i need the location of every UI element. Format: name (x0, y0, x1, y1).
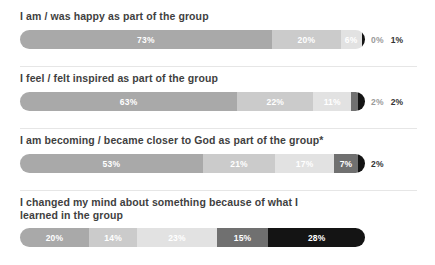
outside-value-label: 2% (391, 97, 404, 107)
bar-row: 63%22%11%2%2% (20, 92, 403, 111)
question-title: I changed my mind about something becaus… (20, 196, 417, 221)
segment-value-label: 7% (340, 159, 353, 169)
question-title: I am becoming / became closer to God as … (20, 134, 417, 147)
bar-segment[interactable]: 17% (275, 154, 334, 173)
stacked-bar: 63%22%11% (20, 92, 365, 111)
segment-value-label: 21% (230, 159, 248, 169)
segment-value-label: 20% (46, 233, 64, 243)
stacked-bar-chart: I am / was happy as part of the group73%… (0, 0, 435, 265)
bar-segment[interactable]: 7% (334, 154, 358, 173)
stacked-bar: 53%21%17%7% (20, 154, 365, 173)
stacked-bar: 20%14%23%15%28% (20, 228, 365, 247)
section-divider (20, 66, 417, 67)
bar-row: 53%21%17%7%2% (20, 154, 384, 173)
bar-segment[interactable] (358, 154, 365, 173)
outside-labels: 2%2% (371, 97, 403, 107)
segment-value-label: 73% (137, 35, 155, 45)
segment-value-label: 15% (234, 233, 252, 243)
bar-segment[interactable]: 21% (203, 154, 275, 173)
bar-segment[interactable]: 20% (272, 30, 341, 49)
bar-segment[interactable]: 20% (20, 228, 89, 247)
segment-value-label: 23% (168, 233, 186, 243)
bar-row: 73%20%6%0%1% (20, 30, 403, 49)
segment-value-label: 11% (324, 97, 341, 107)
bar-row: 20%14%23%15%28% (20, 228, 365, 247)
bar-segment[interactable]: 22% (237, 92, 313, 111)
segment-value-label: 53% (103, 159, 121, 169)
bar-segment[interactable]: 73% (20, 30, 272, 49)
segment-value-label: 14% (104, 233, 122, 243)
bar-segment[interactable] (362, 30, 365, 49)
bar-segment[interactable] (351, 92, 358, 111)
segment-value-label: 28% (308, 233, 326, 243)
question-title: I feel / felt inspired as part of the gr… (20, 72, 417, 85)
bar-segment[interactable]: 23% (137, 228, 216, 247)
bar-segment[interactable]: 53% (20, 154, 203, 173)
bar-segment[interactable]: 6% (341, 30, 362, 49)
outside-value-label: 0% (371, 35, 384, 45)
bar-segment[interactable] (358, 92, 365, 111)
segment-value-label: 6% (345, 35, 358, 45)
outside-value-label: 2% (371, 97, 384, 107)
outside-labels: 0%1% (371, 35, 403, 45)
question-title: I am / was happy as part of the group (20, 10, 417, 23)
segment-value-label: 22% (266, 97, 284, 107)
bar-segment[interactable]: 63% (20, 92, 237, 111)
segment-value-label: 63% (120, 97, 138, 107)
segment-value-label: 20% (298, 35, 316, 45)
segment-value-label: 17% (296, 159, 314, 169)
stacked-bar: 73%20%6% (20, 30, 365, 49)
bar-segment[interactable]: 14% (89, 228, 137, 247)
section-divider (20, 190, 417, 191)
outside-value-label: 1% (391, 35, 404, 45)
bar-segment[interactable]: 15% (217, 228, 269, 247)
section-divider (20, 128, 417, 129)
outside-value-label: 2% (371, 159, 384, 169)
bar-segment[interactable]: 11% (313, 92, 351, 111)
bar-segment[interactable]: 28% (268, 228, 365, 247)
outside-labels: 2% (371, 159, 384, 169)
